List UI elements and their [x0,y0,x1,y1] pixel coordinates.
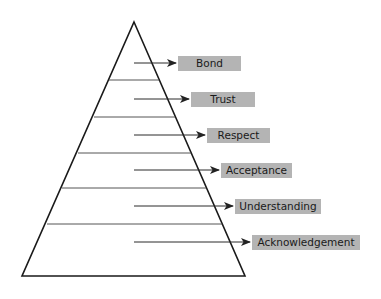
level-label-respect: Respect [207,128,270,143]
level-label-trust: Trust [191,92,255,107]
level-label-bond: Bond [178,56,241,71]
pyramid-graphic [0,0,381,299]
level-label-acceptance: Acceptance [221,163,292,178]
level-label-acknowledgement: Acknowledgement [252,235,360,250]
level-label-understanding: Understanding [235,199,321,214]
pyramid-diagram: Bond Trust Respect Acceptance Understand… [0,0,381,299]
